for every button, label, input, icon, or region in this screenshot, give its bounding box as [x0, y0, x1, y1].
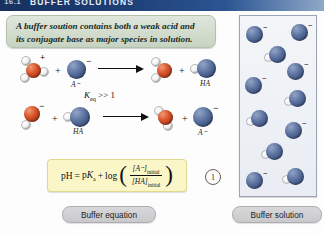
anion-atom [245, 77, 262, 94]
plus-sign: + [52, 114, 58, 124]
molecule-label: HA [73, 127, 83, 136]
charge-label: − [39, 102, 44, 111]
buffer-solution-panel: −−−−−− [239, 15, 317, 197]
charge-label: − [262, 75, 267, 83]
charge-label: − [86, 57, 91, 66]
plus-sign: + [55, 66, 61, 76]
denominator: [HA]initial [130, 176, 162, 187]
equilibrium-constant-label: Keq >> 1 [84, 90, 115, 102]
left-paren: ( [119, 166, 127, 184]
molecule-conjugate-base: − A⁻ [67, 58, 91, 88]
equals-sign: = [75, 171, 80, 181]
charge-label: − [263, 170, 268, 178]
molecule-conjugate-base: − A⁻ [193, 106, 219, 136]
particle-conjugate-base: − [246, 170, 274, 192]
step-marker-1: 1 [205, 169, 221, 185]
statement-line-1: A buffer soution contains both a weak ac… [16, 20, 206, 33]
anion-atom [269, 46, 286, 63]
molecule-hydronium: + [20, 56, 52, 86]
oxygen-atom [157, 63, 172, 78]
anion-atom [70, 107, 90, 127]
anion-atom [266, 143, 283, 160]
plus-sign: + [179, 66, 185, 76]
molecule-water [151, 57, 181, 87]
reaction-row-1: + + − A⁻ + [18, 54, 230, 94]
anion-atom [246, 172, 263, 189]
molecule-label: HA [200, 79, 210, 88]
caption-buffer-solution: Buffer solution [232, 206, 322, 223]
reaction-arrow [98, 64, 146, 74]
molecule-label: A⁻ [71, 80, 80, 89]
buffer-equation-box: pH = pKa + log ( [A⁻]initial [HA]initial… [47, 159, 187, 192]
section-number: 16.1 [4, 0, 21, 6]
particle-conjugate-base: − [285, 120, 313, 142]
anion-atom [197, 59, 216, 78]
log-term: log [105, 171, 117, 181]
molecule-water [154, 105, 184, 135]
plus-sign: + [98, 171, 103, 181]
reaction-diagram: + + − A⁻ + [18, 52, 230, 150]
particle-weak-acid [246, 108, 274, 130]
molecule-weak-acid: HA [190, 58, 222, 88]
numerator: [A⁻]initial [131, 164, 162, 175]
section-title: BUFFER SOLUTIONS [30, 0, 134, 7]
anion-atom [285, 122, 302, 139]
anion-atom [246, 26, 263, 43]
anion-atom [287, 63, 304, 80]
oxygen-atom [26, 63, 41, 78]
figure-root: 16.1 BUFFER SOLUTIONS A buffer soution c… [0, 0, 324, 235]
particle-conjugate-base: − [291, 22, 317, 44]
pka-term: pKa [82, 170, 96, 182]
charge-label: − [263, 24, 268, 32]
concentration-ratio: [A⁻]initial [HA]initial [130, 164, 162, 187]
section-header-bar: 16.1 BUFFER SOLUTIONS [0, 0, 324, 11]
anion-atom [287, 168, 304, 185]
particle-weak-acid [282, 166, 310, 188]
particle-weak-acid [284, 88, 312, 110]
right-paren: ) [165, 166, 173, 184]
molecule-weak-acid: HA [63, 105, 97, 135]
particle-conjugate-base: − [287, 61, 315, 83]
reaction-row-2: − + HA + − [18, 102, 230, 142]
anion-atom [67, 60, 86, 79]
particle-conjugate-base: − [245, 75, 273, 97]
charge-label: + [40, 53, 45, 62]
anion-atom [193, 107, 213, 127]
plus-sign: + [182, 114, 188, 124]
henderson-hasselbalch-equation: pH = pKa + log ( [A⁻]initial [HA]initial… [61, 164, 173, 187]
caption-buffer-equation: Buffer equation [62, 206, 156, 223]
anion-atom [251, 110, 268, 127]
oxygen-atom [24, 106, 40, 122]
oxygen-atom [158, 110, 173, 125]
molecule-hydroxide: − [20, 104, 50, 134]
particle-weak-acid [261, 141, 289, 163]
statement-line-2: its conjugate base as major species in s… [16, 33, 206, 46]
statement-box: A buffer soution contains both a weak ac… [6, 15, 216, 48]
reaction-arrow [103, 112, 151, 122]
charge-label: − [308, 22, 313, 30]
anion-atom [291, 24, 308, 41]
particle-conjugate-base: − [246, 24, 274, 46]
anion-atom [289, 90, 306, 107]
molecule-label: A⁻ [198, 128, 207, 137]
charge-label: − [304, 61, 309, 69]
ph-term: pH [61, 171, 73, 181]
charge-label: − [302, 120, 307, 128]
charge-label: − [213, 104, 218, 113]
